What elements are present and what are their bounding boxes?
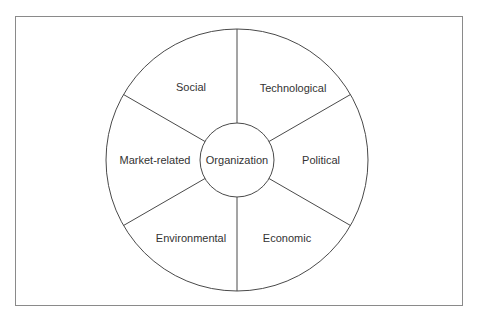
segment-label-technological: Technological	[260, 82, 327, 94]
divider-upper-left	[124, 95, 206, 142]
segment-label-economic: Economic	[263, 232, 312, 244]
center-label: Organization	[206, 154, 268, 166]
segment-label-environmental: Environmental	[156, 232, 226, 244]
segment-label-social: Social	[176, 81, 206, 93]
divider-upper-right	[269, 95, 351, 142]
segment-label-political: Political	[302, 154, 340, 166]
divider-lower-right	[269, 179, 351, 226]
segment-label-market-related: Market-related	[120, 154, 191, 166]
environment-wheel-diagram: Organization Social Technological Politi…	[0, 0, 479, 312]
divider-lower-left	[124, 179, 206, 226]
